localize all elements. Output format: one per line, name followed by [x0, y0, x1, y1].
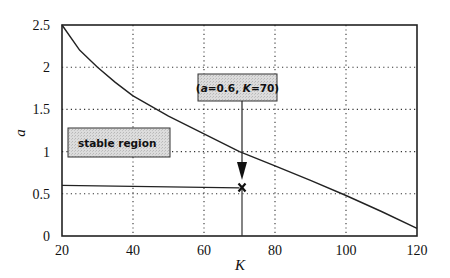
plot-series — [62, 25, 417, 228]
x-tick-label: 80 — [268, 243, 282, 258]
callout-box: (a=0.6, K=70) — [196, 74, 279, 101]
y-tick-label: 0 — [43, 229, 50, 244]
series-line — [62, 25, 417, 228]
callout-arrow — [237, 101, 247, 180]
x-tick-label: 100 — [336, 243, 357, 258]
y-tick-label: 0.5 — [33, 187, 51, 202]
y-tick-label: 1 — [43, 145, 50, 160]
y-axis-label: a — [12, 129, 28, 137]
x-axis-label: K — [234, 257, 246, 273]
stable-region-label: stable region — [78, 137, 156, 149]
x-tick-label: 120 — [407, 243, 428, 258]
x-axis-ticks: 20406080100120 — [55, 243, 428, 258]
y-tick-label: 1.5 — [33, 102, 51, 117]
y-tick-label: 2.5 — [33, 18, 51, 33]
stable-region-box: stable region — [68, 128, 170, 157]
y-tick-label: 2 — [43, 60, 50, 75]
y-axis-ticks: 00.511.522.5 — [33, 18, 51, 244]
x-tick-label: 20 — [55, 243, 69, 258]
x-tick-label: 60 — [197, 243, 211, 258]
callout-label: (a=0.6, K=70) — [196, 82, 279, 94]
x-tick-label: 40 — [126, 243, 140, 258]
series-line — [62, 185, 240, 188]
chart: 20406080100120 00.511.522.5 K a stable r… — [0, 0, 450, 278]
